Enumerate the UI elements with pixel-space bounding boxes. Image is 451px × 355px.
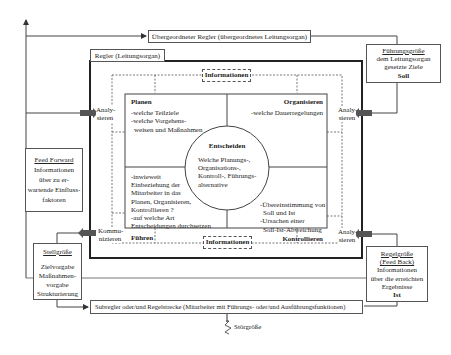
controller-label: Regler (Leitungsorgan)	[91, 52, 164, 60]
decide-body: Welche Planungs-, Organisations-, Kontro…	[198, 156, 256, 189]
superior-controller-box: Übergeordneter Regler (übergeordnetes Le…	[148, 30, 311, 43]
analyze-right-top-label: Analy- sieren	[338, 106, 356, 122]
decide-title: Entscheiden	[192, 142, 262, 150]
quadrant-plan: Planen -welche Teilziele -welche Vorgehe…	[131, 98, 202, 134]
superior-controller-label: Übergeordneter Regler (übergeordnetes Le…	[149, 33, 310, 41]
quadrant-organize: Organisieren -welche Dauerregelungen	[240, 98, 323, 117]
communicate-label: Kommu- nizieren	[98, 227, 122, 243]
quadrant-control-title: Kontrollieren	[260, 235, 323, 243]
disturbance-label: Störgröße	[234, 323, 261, 331]
controlled-variable-box: Regelgröße (Feed Back) Informationen übe…	[366, 246, 428, 302]
information-top-label: Informationen	[202, 69, 251, 82]
subcontroller-box: Subregler oder/und Regelstrecke (Mitarbe…	[90, 300, 363, 314]
subcontroller-label: Subregler oder/und Regelstrecke (Mitarbe…	[95, 303, 345, 311]
analyze-right-bottom-label: Analy- sieren	[338, 228, 356, 244]
feed-forward-box: Feed Forward Informationen über zu er- w…	[25, 148, 83, 212]
reference-variable-box: Führungsgröße dem Leitungsorgan gesetzte…	[366, 44, 441, 83]
analyze-left-label: Analy- sieren	[96, 106, 114, 122]
controller-label-box: Regler (Leitungsorgan)	[90, 49, 165, 62]
quadrant-control: -Übereinstimmung von Soll und Ist -Ursac…	[260, 201, 325, 234]
manipulated-variable-box: Stellgröße Zielvorgabe Maßnahmen- vorgab…	[33, 243, 82, 300]
